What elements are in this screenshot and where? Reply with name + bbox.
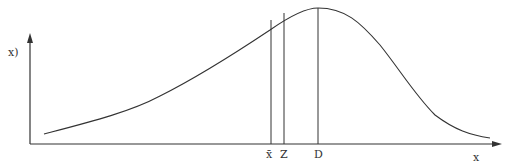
mean-label: x̄ [266,148,273,161]
x-axis-arrow-icon [492,141,502,147]
mode-label: D [314,148,323,161]
median-label: Z [280,148,288,161]
distribution-curve [44,8,490,138]
distribution-diagram: x) x̄ Z D x [0,0,507,163]
y-axis-label: x) [8,46,19,59]
y-axis-arrow-icon [27,33,33,43]
x-axis-label: x [473,151,480,163]
